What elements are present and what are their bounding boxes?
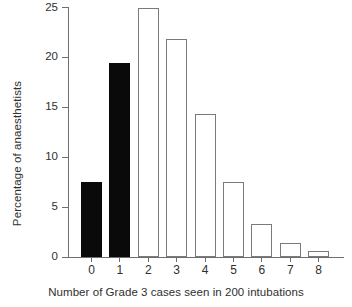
x-tick-label: 5 bbox=[222, 263, 246, 277]
x-tick-label: 2 bbox=[136, 263, 160, 277]
x-tick-label: 7 bbox=[278, 263, 302, 277]
bar-2 bbox=[138, 8, 159, 258]
bar-0 bbox=[81, 182, 102, 257]
y-tick-mark bbox=[62, 157, 68, 158]
x-tick-mark bbox=[119, 258, 120, 262]
y-axis-line bbox=[68, 7, 69, 258]
bar-chart-figure: Percentage of anaesthetists 0510152025 0… bbox=[0, 0, 352, 307]
x-tick-label: 3 bbox=[165, 263, 189, 277]
y-tick-label: 5 bbox=[18, 201, 58, 213]
y-tick-label: 25 bbox=[18, 2, 58, 14]
bar-5 bbox=[223, 182, 244, 257]
bar-4 bbox=[195, 114, 216, 257]
y-tick-mark bbox=[62, 7, 68, 8]
x-tick-mark bbox=[261, 258, 262, 262]
y-tick-mark bbox=[62, 57, 68, 58]
x-tick-mark bbox=[91, 258, 92, 262]
bar-3 bbox=[166, 39, 187, 257]
y-tick-label: 10 bbox=[18, 151, 58, 163]
y-tick-label: 0 bbox=[18, 251, 58, 263]
x-tick-mark bbox=[205, 258, 206, 262]
x-tick-mark bbox=[233, 258, 234, 262]
bar-1 bbox=[109, 63, 130, 257]
x-tick-label: 8 bbox=[307, 263, 331, 277]
y-tick-mark bbox=[62, 107, 68, 108]
x-tick-mark bbox=[318, 258, 319, 262]
x-tick-label: 6 bbox=[250, 263, 274, 277]
y-tick-label: 20 bbox=[18, 51, 58, 63]
x-tick-label: 1 bbox=[108, 263, 132, 277]
bar-6 bbox=[251, 224, 272, 257]
x-axis-title: Number of Grade 3 cases seen in 200 intu… bbox=[0, 286, 352, 298]
x-tick-mark bbox=[176, 258, 177, 262]
bar-8 bbox=[308, 251, 329, 257]
x-tick-mark bbox=[290, 258, 291, 262]
x-tick-label: 4 bbox=[193, 263, 217, 277]
x-axis-line bbox=[68, 257, 344, 258]
y-tick-label: 15 bbox=[18, 101, 58, 113]
bar-7 bbox=[280, 243, 301, 257]
x-tick-label: 0 bbox=[80, 263, 104, 277]
y-tick-mark bbox=[62, 207, 68, 208]
y-tick-mark bbox=[62, 257, 68, 258]
x-tick-mark bbox=[148, 258, 149, 262]
